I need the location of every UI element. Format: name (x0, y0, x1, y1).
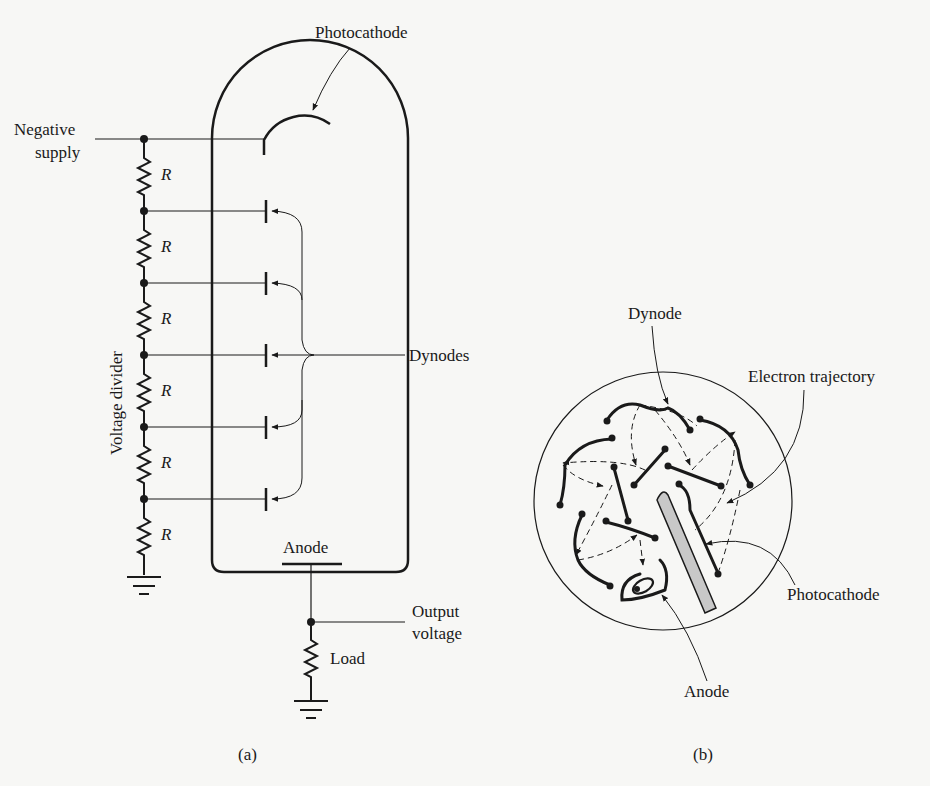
voltage-divider-label: Voltage divider (107, 351, 126, 455)
resistor-3 (138, 283, 150, 355)
resistor-6-label: R (160, 525, 172, 544)
photocathode-label: Photocathode (315, 23, 408, 42)
photocathode-b-pointer (706, 541, 795, 585)
dynode-label: Dynode (628, 304, 682, 323)
dynodes-label: Dynodes (409, 346, 469, 365)
photocathode-pointer (313, 48, 350, 110)
anode-b-label: Anode (684, 682, 729, 701)
resistor-1-label: R (160, 165, 172, 184)
load-resistor (305, 622, 317, 700)
negative-supply-label-1: Negative (14, 120, 75, 139)
electron-trajectory-label: Electron trajectory (748, 367, 875, 386)
ground-icon (294, 701, 328, 718)
photocathode-electrode (264, 116, 330, 155)
dynode-end-dots (557, 416, 754, 590)
resistor-5-label: R (160, 453, 172, 472)
resistor-5 (138, 427, 150, 499)
photocathode-b-label: Photocathode (787, 585, 880, 604)
negative-supply-label-2: supply (35, 143, 81, 162)
junction-dot (140, 135, 148, 143)
anode-label: Anode (283, 538, 328, 557)
figure-b: Dynode Electron trajectory Photocathode … (534, 304, 880, 764)
caption-a: (a) (238, 745, 257, 764)
electron-trajectory-pointer (727, 390, 804, 503)
anode-dot (634, 586, 640, 592)
dynode-electrodes (560, 404, 750, 600)
caption-b: (b) (693, 745, 713, 764)
dynodes-pointer (272, 211, 405, 499)
output-voltage-label-2: voltage (412, 624, 462, 643)
resistor-3-label: R (160, 309, 172, 328)
tube-envelope (212, 40, 408, 572)
figure-a: Photocathode Negative supply Voltage div… (14, 23, 469, 764)
resistor-4 (138, 355, 150, 427)
electron-trajectories (563, 405, 740, 573)
resistor-2-label: R (160, 237, 172, 256)
dynode-pointer (652, 326, 668, 404)
ground-icon (127, 577, 161, 594)
resistor-4-label: R (160, 381, 172, 400)
resistor-1 (138, 139, 150, 211)
resistor-2 (138, 211, 150, 283)
photocathode-rod (657, 492, 716, 613)
photomultiplier-diagram: Photocathode Negative supply Voltage div… (0, 0, 930, 786)
load-label: Load (330, 649, 365, 668)
resistor-6 (138, 499, 150, 575)
anode-b-pointer (662, 595, 707, 681)
output-voltage-label-1: Output (412, 602, 460, 621)
